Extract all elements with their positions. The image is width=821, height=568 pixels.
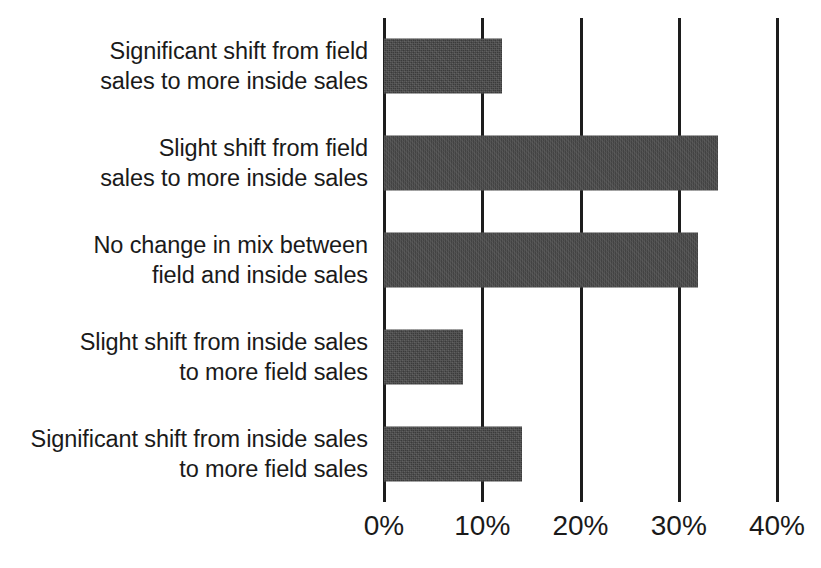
x-axis-tick-labels: 0% 10% 20% 30% 40% — [0, 508, 821, 552]
category-label-row: Significant shift from inside sales to m… — [0, 405, 368, 502]
category-label: Slight shift from inside sales to more f… — [80, 327, 368, 387]
category-label-row: Slight shift from inside sales to more f… — [0, 308, 368, 405]
category-label: Slight shift from field sales to more in… — [100, 133, 368, 193]
x-tick-label: 10% — [454, 508, 510, 544]
bar-row — [384, 308, 777, 405]
bar-chart: Significant shift from field sales to mo… — [0, 0, 821, 568]
bar-row — [384, 212, 777, 309]
category-label: Significant shift from inside sales to m… — [31, 424, 368, 484]
bar[interactable] — [384, 136, 718, 191]
x-tick-label: 40% — [749, 508, 805, 544]
category-label-row: Slight shift from field sales to more in… — [0, 115, 368, 212]
bar-row — [384, 18, 777, 115]
bar[interactable] — [384, 426, 522, 481]
bar[interactable] — [384, 39, 502, 94]
category-label: No change in mix between field and insid… — [93, 230, 368, 290]
x-tick-label: 30% — [651, 508, 707, 544]
bar-row — [384, 115, 777, 212]
plot-area — [384, 18, 777, 502]
x-tick-label: 20% — [552, 508, 608, 544]
bar-row — [384, 405, 777, 502]
category-label: Significant shift from field sales to mo… — [100, 36, 368, 96]
category-label-row: No change in mix between field and insid… — [0, 212, 368, 309]
bar[interactable] — [384, 232, 698, 287]
category-axis-labels: Significant shift from field sales to mo… — [0, 18, 368, 502]
category-label-row: Significant shift from field sales to mo… — [0, 18, 368, 115]
bar[interactable] — [384, 329, 463, 384]
x-tick-label: 0% — [364, 508, 404, 544]
